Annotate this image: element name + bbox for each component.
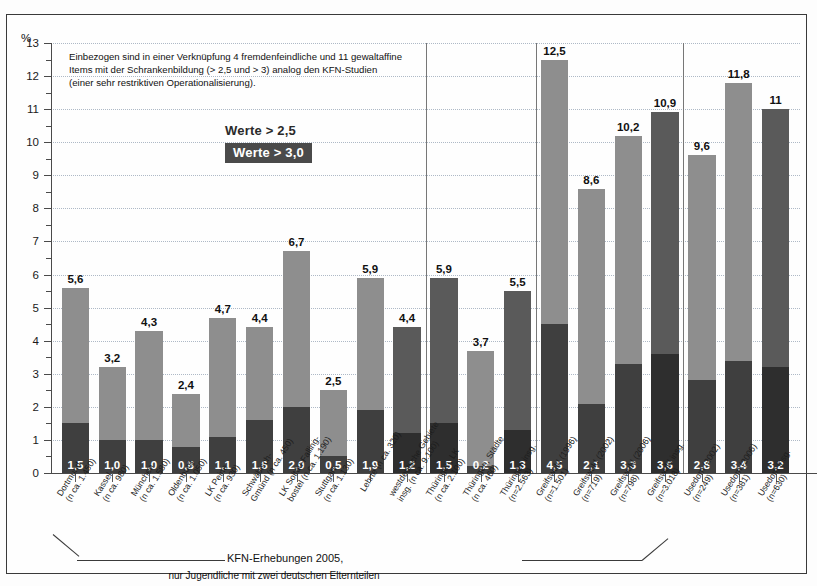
bar-19[interactable]: 3,411,8	[725, 83, 752, 473]
bar-14[interactable]: 4,512,5	[541, 60, 568, 473]
bracket-left-diagonal	[53, 534, 80, 557]
y-axis-label: 0	[13, 467, 39, 479]
bar-total-value-label: 5,6	[67, 273, 83, 285]
annotation-line-2: Items mit der Schrankenbildung (> 2,5 un…	[69, 64, 461, 77]
bar-total-value-label: 11,8	[728, 68, 750, 80]
y-axis-tick	[44, 43, 51, 44]
bar-total-value-label: 4,3	[141, 316, 157, 328]
y-axis-tick	[44, 175, 51, 176]
caption-line-2: nur Jugendliche mit zwei deutschen Elter…	[99, 570, 449, 581]
y-axis-label: 9	[13, 169, 39, 181]
bar-total-value-label: 5,9	[436, 263, 452, 275]
legend: Werte > 2,5 Werte > 3,0	[225, 123, 312, 163]
y-axis-label: 4	[13, 335, 39, 347]
y-axis-tick	[44, 374, 51, 375]
bar-segment-upper	[541, 60, 568, 325]
bracket-right-line	[522, 560, 642, 561]
bar-total-value-label: 5,9	[362, 263, 378, 275]
bar-segment-upper	[62, 288, 89, 424]
y-axis-label: 11	[13, 103, 39, 115]
y-axis-label: 3	[13, 368, 39, 380]
bar-segment-upper	[578, 189, 605, 404]
chart-root: % 012345678910111213 Einbezogen sind in …	[0, 0, 817, 586]
y-axis-label: 13	[13, 37, 39, 49]
bar-9[interactable]: 1,95,9	[357, 278, 384, 473]
bar-total-value-label: 6,7	[289, 236, 305, 248]
bar-18[interactable]: 2,89,6	[688, 155, 715, 473]
y-axis-tick	[44, 109, 51, 110]
annotation-line-1: Einbezogen sind in einer Verknüpfung 4 f…	[69, 51, 461, 64]
annotation-note: Einbezogen sind in einer Verknüpfung 4 f…	[69, 51, 461, 90]
y-axis-tick	[44, 308, 51, 309]
y-axis-tick	[44, 142, 51, 143]
y-axis-tick	[44, 341, 51, 342]
chart-frame: % 012345678910111213 Einbezogen sind in …	[6, 14, 807, 574]
annotation-line-3: (einer sehr restriktiven Operationalisie…	[69, 77, 461, 90]
y-axis-label: 6	[13, 269, 39, 281]
bar-segment-upper	[135, 331, 162, 440]
bar-total-value-label: 8,6	[583, 174, 599, 186]
y-axis-line	[51, 43, 52, 473]
bar-total-value-label: 2,5	[325, 375, 341, 387]
bar-segment-upper	[283, 251, 310, 406]
bar-total-value-label: 5,5	[510, 276, 526, 288]
bar-1[interactable]: 1,55,6	[62, 288, 89, 473]
bar-total-value-label: 10,9	[654, 97, 676, 109]
bar-segment-upper	[172, 394, 199, 447]
bar-total-value-label: 12,5	[543, 45, 565, 57]
group-separator	[536, 43, 537, 473]
group-separator	[683, 43, 684, 473]
y-axis-label: 10	[13, 136, 39, 148]
y-axis-label: 8	[13, 202, 39, 214]
bar-2[interactable]: 1,03,2	[99, 367, 126, 473]
bar-segment-upper	[725, 83, 752, 361]
bar-segment-upper	[209, 318, 236, 437]
bar-5[interactable]: 1,14,7	[209, 318, 236, 473]
legend-item-light: Werte > 2,5	[225, 123, 312, 138]
bar-17[interactable]: 3,610,9	[651, 112, 678, 473]
bar-3[interactable]: 1,04,3	[135, 331, 162, 473]
bar-segment-upper	[504, 291, 531, 430]
bracket-right-diagonal	[641, 538, 668, 561]
bar-total-value-label: 4,7	[215, 303, 231, 315]
y-axis-tick	[44, 241, 51, 242]
y-axis-tick	[44, 440, 51, 441]
bar-segment-upper	[99, 367, 126, 440]
y-axis-tick	[44, 473, 51, 474]
y-axis-label: 12	[13, 70, 39, 82]
y-axis-tick	[44, 76, 51, 77]
bar-segment-upper	[688, 155, 715, 380]
bar-total-value-label: 2,4	[178, 379, 194, 391]
y-axis-tick	[44, 407, 51, 408]
group-separator	[426, 43, 427, 473]
bar-total-value-label: 4,4	[252, 312, 268, 324]
bar-total-value-label: 9,6	[694, 140, 710, 152]
caption-line-1: KFN-Erhebungen 2005,	[227, 552, 323, 564]
y-axis-label: 7	[13, 235, 39, 247]
bar-segment-upper	[430, 278, 457, 424]
bar-20[interactable]: 3,211	[762, 109, 789, 473]
bar-segment-upper	[246, 327, 273, 420]
bar-15[interactable]: 2,18,6	[578, 189, 605, 473]
y-axis-label: 5	[13, 302, 39, 314]
y-axis-tick	[44, 275, 51, 276]
y-axis-label: 2	[13, 401, 39, 413]
bracket-left-line	[77, 560, 225, 561]
bar-total-value-label: 10,2	[617, 121, 639, 133]
bar-total-value-label: 3,2	[104, 352, 120, 364]
bar-segment-upper	[357, 278, 384, 410]
bar-16[interactable]: 3,310,2	[615, 136, 642, 473]
bar-segment-upper	[762, 109, 789, 367]
bar-segment-upper	[651, 112, 678, 353]
bar-total-value-label: 3,7	[473, 336, 489, 348]
bar-total-value-label: 11	[769, 94, 781, 106]
bar-total-value-label: 4,4	[399, 312, 415, 324]
y-axis-label: 1	[13, 434, 39, 446]
legend-item-dark: Werte > 3,0	[225, 143, 312, 163]
bar-segment-upper	[393, 327, 420, 433]
y-axis-tick	[44, 208, 51, 209]
bar-segment-upper	[615, 136, 642, 364]
